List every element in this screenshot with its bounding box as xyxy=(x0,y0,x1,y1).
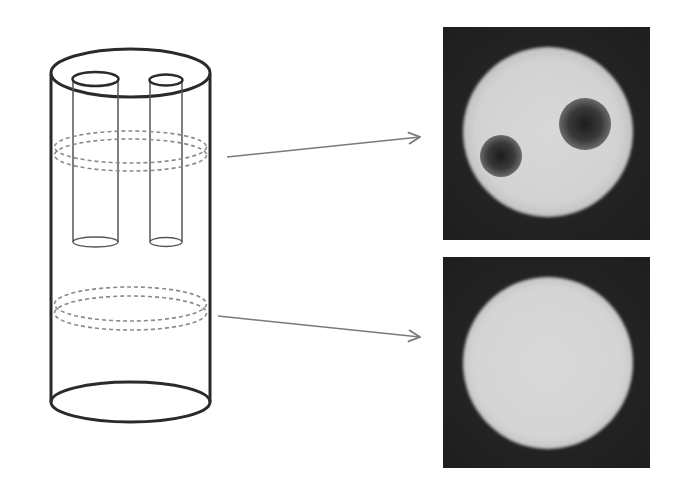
dark-spot-small xyxy=(480,135,522,177)
cylinder-top-ellipse xyxy=(51,49,210,97)
arrow-lower xyxy=(218,316,420,337)
lower-slice-rings xyxy=(55,287,207,330)
outer-cylinder xyxy=(51,49,210,422)
arrow-upper xyxy=(227,137,420,157)
cross-section-upper xyxy=(443,27,650,240)
rod-left xyxy=(73,72,119,247)
cross-section-lower xyxy=(443,257,650,468)
dark-spot-large xyxy=(559,98,611,150)
cylinder-bottom-ellipse xyxy=(51,382,210,422)
upper-slice-rings xyxy=(55,131,207,171)
bright-disk xyxy=(463,277,633,449)
